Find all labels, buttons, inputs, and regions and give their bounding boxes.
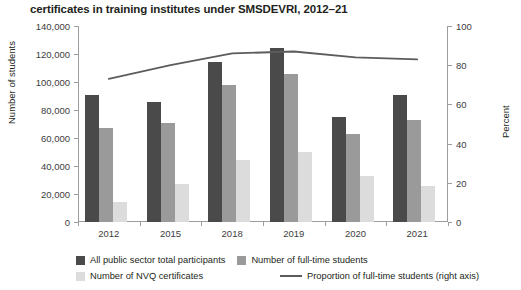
y-axis-right-tick-label: 40 bbox=[456, 138, 467, 149]
legend-swatch-icon-series-2 bbox=[76, 272, 85, 281]
y-axis-left-tick-label: 100,000 bbox=[36, 77, 70, 88]
legend-label-series-3: Proportion of full-time students (right … bbox=[307, 271, 479, 281]
y-axis-left-tick-label: 80,000 bbox=[41, 105, 70, 116]
legend-label-series-0: All public sector total participants bbox=[90, 255, 225, 265]
chart-legend: All public sector total participants Num… bbox=[76, 252, 506, 284]
x-axis-tick-label: 2019 bbox=[283, 228, 304, 239]
proportion-line bbox=[109, 52, 417, 79]
y-axis-right-tick bbox=[448, 65, 452, 66]
x-axis-tick bbox=[325, 222, 326, 226]
y-axis-right-tick-label: 60 bbox=[456, 99, 467, 110]
y-axis-left-tick-label: 60,000 bbox=[41, 133, 70, 144]
x-axis-tick-label: 2015 bbox=[160, 228, 181, 239]
y-axis-left-title: Number of students bbox=[6, 41, 17, 124]
legend-swatch-icon-series-0 bbox=[76, 256, 85, 265]
x-axis-tick bbox=[140, 222, 141, 226]
legend-item-number-of-nvq-certificates[interactable]: Number of NVQ certificates bbox=[76, 271, 276, 281]
line-series-layer bbox=[78, 26, 448, 222]
legend-row-1: All public sector total participants Num… bbox=[76, 252, 506, 268]
legend-row-2: Number of NVQ certificates Proportion of… bbox=[76, 268, 506, 284]
y-axis-right-tick-label: 0 bbox=[456, 217, 461, 228]
x-axis-tick bbox=[263, 222, 264, 226]
x-axis-tick-label: 2012 bbox=[98, 228, 119, 239]
legend-swatch-icon-series-1 bbox=[237, 256, 246, 265]
legend-label-series-1: Number of full-time students bbox=[251, 255, 367, 265]
legend-label-series-2: Number of NVQ certificates bbox=[90, 271, 203, 281]
x-axis-tick-label: 2018 bbox=[222, 228, 243, 239]
y-axis-right-tick-label: 80 bbox=[456, 60, 467, 71]
y-axis-left-tick-label: 0 bbox=[65, 217, 70, 228]
legend-item-all-public-sector-total-participants[interactable]: All public sector total participants bbox=[76, 255, 225, 265]
y-axis-right-tick-label: 100 bbox=[456, 21, 472, 32]
y-axis-left-tick-label: 40,000 bbox=[41, 161, 70, 172]
x-axis-tick bbox=[386, 222, 387, 226]
y-axis-right-tick-label: 20 bbox=[456, 177, 467, 188]
y-axis-right-title: Percent bbox=[500, 105, 511, 138]
legend-line-icon-series-3 bbox=[280, 275, 302, 277]
legend-item-number-of-full-time-students[interactable]: Number of full-time students bbox=[237, 255, 367, 265]
x-axis-tick bbox=[201, 222, 202, 226]
x-axis-tick-label: 2021 bbox=[407, 228, 428, 239]
y-axis-left-tick-label: 120,000 bbox=[36, 49, 70, 60]
y-axis-right-tick bbox=[448, 104, 452, 105]
x-axis-tick bbox=[448, 222, 449, 226]
y-axis-right-tick bbox=[448, 26, 452, 27]
legend-item-proportion-of-full-time-students[interactable]: Proportion of full-time students (right … bbox=[280, 271, 479, 281]
x-axis-tick-label: 2020 bbox=[345, 228, 366, 239]
chart-title: certificates in training institutes unde… bbox=[30, 2, 500, 16]
y-axis-left-tick-label: 140,000 bbox=[36, 21, 70, 32]
plot-area: 020,00040,00060,00080,000100,000120,0001… bbox=[78, 26, 448, 222]
y-axis-right-tick bbox=[448, 144, 452, 145]
x-axis-tick bbox=[78, 222, 79, 226]
y-axis-right-tick bbox=[448, 183, 452, 184]
y-axis-left-tick-label: 20,000 bbox=[41, 189, 70, 200]
